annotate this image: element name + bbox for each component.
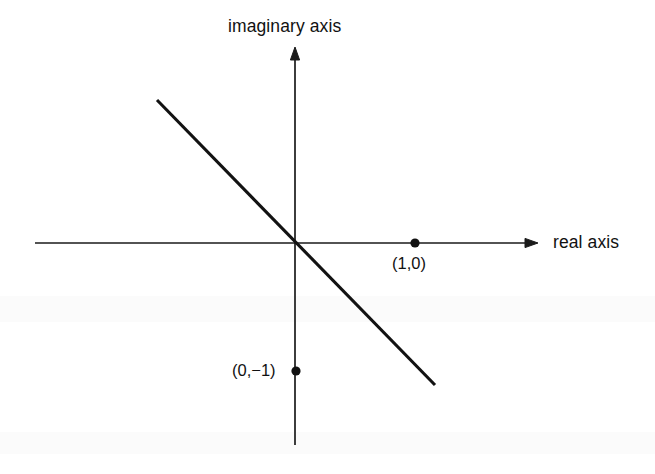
- point-1-0-dot: [410, 238, 419, 247]
- point-0-neg1-dot: [291, 366, 300, 375]
- real-axis-label: real axis: [553, 234, 619, 252]
- complex-plane-figure: imaginary axis real axis (1,0) (0,−1): [0, 0, 655, 474]
- point-1-0-label: (1,0): [392, 255, 426, 272]
- point-0-neg1-label: (0,−1): [232, 362, 276, 379]
- real-axis-arrowhead: [525, 238, 538, 247]
- imaginary-axis-label: imaginary axis: [228, 18, 341, 36]
- imaginary-axis-arrowhead: [290, 47, 299, 60]
